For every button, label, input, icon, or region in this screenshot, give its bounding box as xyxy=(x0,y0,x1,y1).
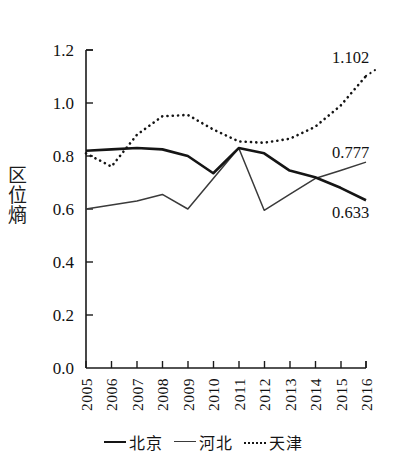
legend-label-hebei: 河北 xyxy=(199,430,232,454)
series-line-tianjin xyxy=(86,76,366,167)
annotation-leaders xyxy=(366,68,378,76)
axis-lines xyxy=(86,50,366,368)
legend-item-hebei[interactable]: 河北 xyxy=(174,430,232,454)
leader-tianjin xyxy=(366,68,378,76)
legend-item-beijing[interactable]: 北京 xyxy=(104,430,162,454)
x-axis-ticks xyxy=(86,361,366,368)
series-line-hebei xyxy=(86,148,366,210)
plot-area xyxy=(0,0,406,471)
legend-label-beijing: 北京 xyxy=(129,430,162,454)
legend-swatch-dotted-icon xyxy=(244,437,266,447)
legend-label-tianjin: 天津 xyxy=(269,430,302,454)
chart-figure: 区位熵 1.2 1.0 0.8 0.6 0.4 0.2 0.0 2005 200… xyxy=(0,0,406,471)
series-line-beijing xyxy=(86,148,366,200)
legend-item-tianjin[interactable]: 天津 xyxy=(244,430,302,454)
legend-swatch-solid-thick-icon xyxy=(104,437,126,447)
legend-swatch-solid-thin-icon xyxy=(174,437,196,447)
y-axis-ticks xyxy=(86,50,93,315)
chart-legend: 北京 河北 天津 xyxy=(0,430,406,454)
